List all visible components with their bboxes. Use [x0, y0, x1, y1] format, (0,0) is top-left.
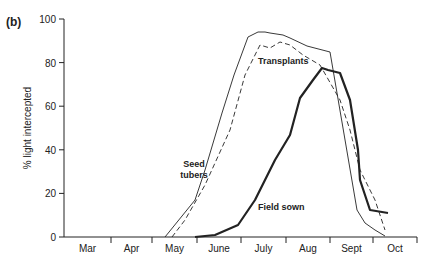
- x-tick-label: July: [255, 243, 273, 254]
- y-tick-label: 100: [39, 14, 56, 25]
- annotation-seed-tubers: Seed: [183, 159, 205, 169]
- x-tick-label: Oct: [387, 243, 403, 254]
- x-tick-label: Sept: [341, 243, 362, 254]
- annotation-seed-tubers: tubers: [180, 170, 208, 180]
- y-axis-label: % light intercepted: [22, 87, 33, 169]
- y-tick-label: 0: [50, 232, 56, 243]
- x-tick-label: June: [208, 243, 230, 254]
- panel-label: (b): [6, 15, 21, 29]
- x-tick-label: Aug: [299, 243, 317, 254]
- x-tick-label: Mar: [79, 243, 97, 254]
- x-tick-label: Apr: [124, 243, 140, 254]
- y-tick-label: 80: [45, 58, 57, 69]
- y-tick-label: 20: [45, 188, 57, 199]
- chart: 020406080100MarAprMayJuneJulyAugSeptOct%…: [0, 0, 440, 264]
- line-chart: 020406080100MarAprMayJuneJulyAugSeptOct%…: [0, 0, 440, 264]
- y-tick-label: 60: [45, 101, 57, 112]
- annotation-field-sown: Field sown: [258, 202, 305, 212]
- annotation-transplants: Transplants: [258, 56, 309, 66]
- x-tick-label: May: [165, 243, 184, 254]
- y-tick-label: 40: [45, 145, 57, 156]
